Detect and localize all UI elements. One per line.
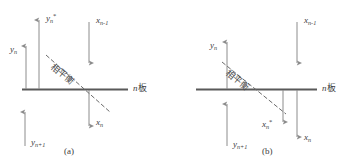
panel-b-plate-label-cjk: 板 — [327, 83, 336, 93]
panel-b-label-y-n-plus-1-sub: n+1 — [237, 143, 247, 150]
panel-b-label-y-n-sub: n — [214, 44, 217, 51]
panel-a-caption: (a) — [64, 147, 74, 156]
panel-a-label-y-n-plus-1-sub: n+1 — [35, 141, 45, 148]
panel-b-label-x-n-minus-1: xn-1 — [304, 16, 316, 25]
panel-b-plate-label: n板 — [322, 84, 336, 93]
panel-a-label-x-n-sub: n — [100, 121, 103, 128]
panel-a-plate-label-cjk: 板 — [138, 83, 147, 93]
panel-b-label-y-n-plus-1: yn+1 — [233, 140, 247, 149]
panel-b-label-x-n-star-sup: * — [269, 118, 272, 125]
panel-a-plate-label: n板 — [133, 84, 147, 93]
panel-a-label-y-n-plus-1: yn+1 — [31, 138, 45, 147]
panel-b-label-x-n-sub: n — [308, 136, 311, 143]
panel-a-label-y-n-star: yn* — [46, 14, 56, 23]
panel-b-caption: (b) — [262, 147, 273, 156]
figure-root: yn yn* xn-1 yn+1 xn n板 相平衡 (a) yn xn-1 x… — [0, 0, 349, 167]
panel-a-label-y-n-star-sup: * — [53, 12, 56, 19]
panel-a-label-y-n: yn — [10, 45, 17, 54]
panel-a-label-x-n-minus-1-sub: n-1 — [100, 19, 108, 26]
panel-a-label-y-n-sub: n — [14, 48, 17, 55]
panel-b-label-x-n: xn — [304, 133, 311, 142]
panel-b-label-y-n: yn — [210, 41, 217, 50]
panel-a-label-x-n-minus-1: xn-1 — [96, 16, 108, 25]
panel-a-label-x-n: xn — [96, 118, 103, 127]
panel-b-label-x-n-minus-1-sub: n-1 — [308, 19, 316, 26]
diagram-canvas — [0, 0, 349, 167]
panel-b-label-x-n-star: xn* — [262, 120, 272, 129]
panel-a-group — [22, 20, 128, 146]
